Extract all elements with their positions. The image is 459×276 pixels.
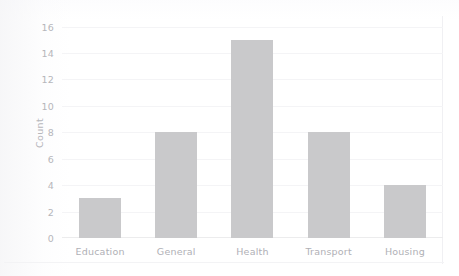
- y-tick-label: 2: [48, 206, 54, 217]
- x-tick-label: General: [157, 246, 196, 257]
- bars-group: EducationGeneralHealthTransportHousing: [62, 20, 443, 238]
- y-tick-label: 0: [48, 233, 54, 244]
- bar-slot: Transport: [291, 20, 367, 238]
- x-tick-label: Transport: [305, 246, 351, 257]
- plot-area: 0246810121416 EducationGeneralHealthTran…: [62, 20, 443, 238]
- y-tick-label: 12: [42, 74, 55, 85]
- y-tick-label: 14: [42, 48, 55, 59]
- bar[interactable]: [79, 198, 121, 238]
- x-tick-label: Housing: [385, 246, 425, 257]
- bar[interactable]: [155, 132, 197, 238]
- y-tick-label: 6: [48, 153, 54, 164]
- x-tick-label: Education: [76, 246, 125, 257]
- bar[interactable]: [231, 40, 273, 238]
- bar-slot: General: [138, 20, 214, 238]
- bar-chart-figure: Count 0246810121416 EducationGeneralHeal…: [0, 0, 459, 276]
- plot-frame-bottom: [4, 262, 444, 263]
- bar-slot: Housing: [367, 20, 443, 238]
- bar-slot: Education: [62, 20, 138, 238]
- y-tick-label: 4: [48, 180, 54, 191]
- bar-slot: Health: [214, 20, 290, 238]
- y-tick-label: 8: [48, 127, 54, 138]
- bar[interactable]: [308, 132, 350, 238]
- y-tick-label: 16: [42, 21, 55, 32]
- bar[interactable]: [384, 185, 426, 238]
- y-axis-label: Count: [34, 118, 45, 148]
- x-tick-label: Health: [236, 246, 268, 257]
- y-tick-label: 10: [42, 100, 55, 111]
